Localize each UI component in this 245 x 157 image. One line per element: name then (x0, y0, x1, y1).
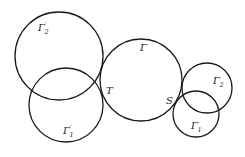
label-gamma2-prime: Γ′2 (37, 21, 49, 36)
circles-diagram: Γ′2Γ′1ΓΓ2Γ1TS (0, 0, 245, 157)
label-gamma1: Γ1 (190, 120, 202, 134)
label-gamma1-prime: Γ′1 (62, 124, 74, 139)
circle-gamma2 (182, 63, 232, 113)
point-label-s: S (166, 95, 173, 106)
point-label-t: T (106, 85, 114, 96)
label-gamma2: Γ2 (212, 75, 224, 89)
circle-gamma2-prime (15, 12, 103, 100)
label-gamma: Γ (139, 42, 148, 53)
labels-group: Γ′2Γ′1ΓΓ2Γ1TS (37, 21, 224, 139)
